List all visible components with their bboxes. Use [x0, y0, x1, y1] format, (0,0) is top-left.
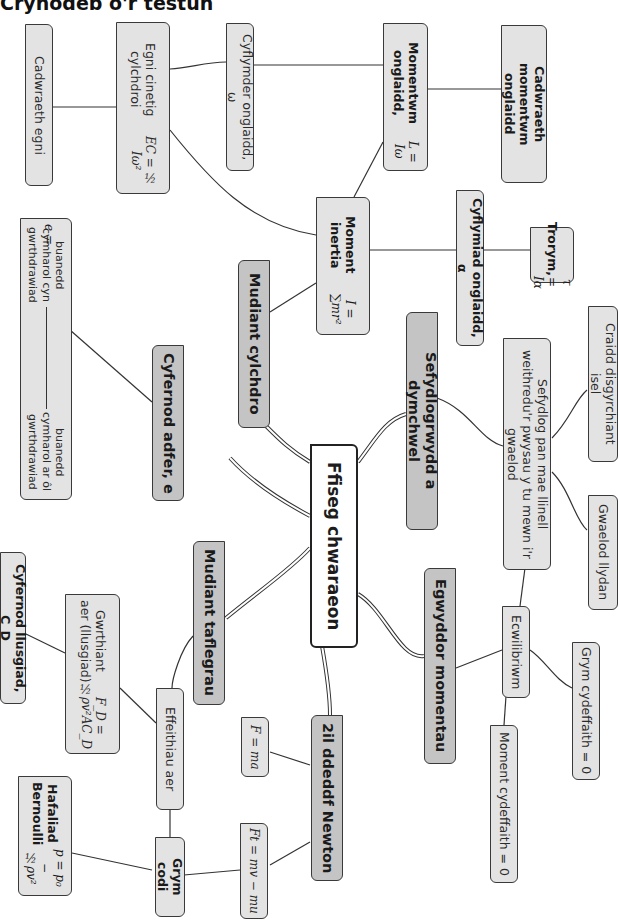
- bernoulli-title: Hafaliad Bernoulli: [30, 781, 60, 846]
- link-stability-stable: [437, 398, 503, 446]
- link-eq-resultantmoment: [504, 696, 506, 725]
- resultant-moment-label: Moment cydeffaith = 0: [497, 732, 512, 876]
- root-branch-rotational: [266, 426, 310, 462]
- node-drag-coefficient[interactable]: Cyfernod llusgiad, C_D: [0, 552, 26, 704]
- inertia-formula: I = ∑mr²: [329, 288, 358, 330]
- fraction-bar: [46, 307, 47, 409]
- angacc-label: Cyflymiad onglaidd, α: [455, 195, 485, 341]
- node-impulse[interactable]: Ft = mv − mu: [240, 823, 268, 919]
- angvel-label: Cyflymder onglaidd, ω: [225, 28, 255, 166]
- branch-newton2-label: 2il ddeddf Newton: [318, 723, 335, 873]
- link-lift-bernoulli: [72, 853, 152, 870]
- node-f-ma[interactable]: F = ma: [241, 717, 269, 777]
- root-node[interactable]: Ffiseg chwaraeon: [310, 444, 358, 648]
- inertia-title: Moment inertia: [328, 202, 358, 288]
- branch-stability-label: Sefydlogrwydd a dymchwel: [405, 317, 440, 525]
- restitution-denominator: buanedd cymharol ar ôl gwrthdrawiad: [26, 409, 66, 495]
- air-resistance-formula: F_D = ½ρv²AC_D: [78, 683, 107, 749]
- node-restitution-formula[interactable]: buanedd cymharol cyn gwrthdrawiad buaned…: [20, 218, 72, 500]
- conservation-energy-label: Cadwraeth egni: [32, 56, 47, 155]
- link-projectile-air: [172, 636, 193, 688]
- impulse-formula: Ft = mv − mu: [247, 828, 261, 914]
- node-torque[interactable]: Trorym, τ = Iα: [530, 227, 574, 283]
- root-branch-stability: [358, 414, 406, 462]
- link-restitution-formula: [70, 330, 152, 402]
- branch-restitution[interactable]: Cyfernod adfer, e: [152, 345, 184, 501]
- link-moments-eq: [456, 650, 502, 668]
- link-rotational-inertia: [270, 283, 316, 312]
- node-resultant-moment[interactable]: Moment cydeffaith = 0: [490, 725, 518, 883]
- stable-when-label: Sefydlog pan mae llinell weithredu'r pwy…: [505, 343, 550, 565]
- resultant-force-label: Grym cydeffaith = 0: [579, 647, 594, 774]
- root-branch-restitution: [230, 458, 310, 516]
- node-moment-of-inertia[interactable]: Moment inertia I = ∑mr²: [316, 197, 370, 335]
- angmom-formula: L = Iω: [391, 137, 420, 166]
- root-branch-projectile: [226, 548, 310, 618]
- node-resultant-force[interactable]: Grym cydeffaith = 0: [572, 642, 600, 780]
- node-conservation-energy[interactable]: Cadwraeth egni: [25, 24, 53, 186]
- branch-projectile[interactable]: Mudiant taflegrau: [193, 541, 225, 705]
- wide-base-label: Gwaelod llydan: [596, 504, 611, 600]
- torque-formula: τ = Iα: [530, 276, 573, 289]
- lift-force-label: Grym codi: [155, 842, 185, 912]
- drag-coefficient-label: Cyfernod llusgiad, C_D: [0, 557, 28, 699]
- branch-rotational-motion[interactable]: Mudiant cylchdro: [238, 260, 270, 428]
- node-low-centre-of-gravity[interactable]: Craidd disgyrchiant isel: [588, 306, 618, 462]
- link-stable-eq: [520, 568, 525, 606]
- rotke-title: Egni cinetig cylchdroi: [128, 27, 158, 132]
- node-air-effects[interactable]: Effeithiau aer: [156, 688, 184, 810]
- rotke-formula: EC = ½ Iω²: [129, 132, 158, 189]
- node-bernoulli[interactable]: Hafaliad Bernoulli p = p₀ − ½ρv²: [18, 776, 72, 896]
- low-cog-label: Craidd disgyrchiant isel: [588, 311, 618, 457]
- link-air-resistance: [120, 688, 156, 723]
- branch-newton2[interactable]: 2il ddeddf Newton: [311, 715, 343, 881]
- node-wide-base[interactable]: Gwaelod llydan: [588, 495, 618, 610]
- link-newton-impulse: [270, 842, 310, 865]
- link-newton-fma: [270, 752, 310, 765]
- branch-projectile-label: Mudiant taflegrau: [200, 549, 217, 696]
- link-stable-lowcog: [552, 390, 587, 438]
- branch-moments[interactable]: Egwyddor momentau: [424, 568, 456, 764]
- node-rotational-ke[interactable]: Egni cinetig cylchdroi EC = ½ Iω²: [116, 22, 170, 194]
- air-resistance-title: Gwrthiant aer (llusgiad): [78, 599, 108, 683]
- node-angular-momentum[interactable]: Momentwm onglaidd, L = Iω: [383, 23, 428, 171]
- node-equilibrium[interactable]: Ecwilibriwm: [502, 606, 530, 698]
- angmom-title: Momentwm onglaidd,: [391, 28, 421, 137]
- branch-stability[interactable]: Sefydlogrwydd a dymchwel: [406, 312, 438, 530]
- node-lift-force[interactable]: Grym codi: [155, 837, 185, 917]
- link-stable-wide: [552, 472, 587, 530]
- bernoulli-formula: p = p₀ − ½ρv²: [23, 846, 66, 891]
- branch-restitution-label: Cyfernod adfer, e: [159, 353, 176, 494]
- branch-moments-label: Egwyddor momentau: [431, 579, 448, 752]
- link-inertia-angmom: [354, 142, 383, 197]
- equilibrium-label: Ecwilibriwm: [509, 615, 524, 689]
- link-ke-angvel: [170, 62, 226, 69]
- node-stable-when[interactable]: Sefydlog pan mae llinell weithredu'r pwy…: [503, 338, 551, 570]
- air-effects-label: Effeithiau aer: [163, 707, 178, 791]
- branch-rotational-label: Mudiant cylchdro: [245, 273, 262, 415]
- restitution-lhs: e =: [42, 224, 56, 245]
- link-resistance-drag: [26, 634, 65, 653]
- node-conservation-angular-momentum[interactable]: Cadwraeth momentwm onglaidd: [501, 25, 547, 183]
- torque-title: Trorym,: [545, 222, 560, 276]
- node-angular-acceleration[interactable]: Cyflymiad onglaidd, α: [456, 190, 484, 346]
- node-angular-velocity[interactable]: Cyflymder onglaidd, ω: [226, 23, 254, 171]
- node-air-resistance[interactable]: Gwrthiant aer (llusgiad) F_D = ½ρv²AC_D: [65, 594, 120, 754]
- f-ma-formula: F = ma: [248, 725, 262, 770]
- root-branch-moments: [358, 594, 424, 656]
- link-eq-resultantforce: [530, 650, 572, 688]
- conservation-angmom-label: Cadwraeth momentwm onglaidd: [502, 30, 547, 178]
- root-label: Ffiseg chwaraeon: [324, 462, 344, 630]
- root-branch-newton2: [322, 646, 330, 715]
- link-lift-impulse: [184, 870, 240, 875]
